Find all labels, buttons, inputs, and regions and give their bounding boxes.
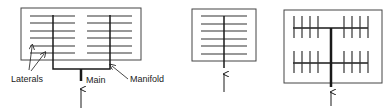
laterals-leader-2: [31, 54, 44, 71]
field-boundary: [284, 10, 382, 83]
panel-double-header-layout: [284, 10, 382, 106]
manifold-leader: [112, 66, 128, 79]
panel-manifold-layout: Laterals Main Manifold: [11, 8, 164, 108]
laterals-leader-1: [29, 47, 32, 70]
irrigation-layouts-diagram: Laterals Main Manifold: [0, 0, 389, 111]
label-laterals: Laterals: [11, 74, 44, 84]
label-main: Main: [86, 75, 106, 85]
panel-single-header-layout: [192, 9, 256, 92]
laterals-group: [30, 16, 132, 53]
label-manifold: Manifold: [130, 74, 164, 84]
